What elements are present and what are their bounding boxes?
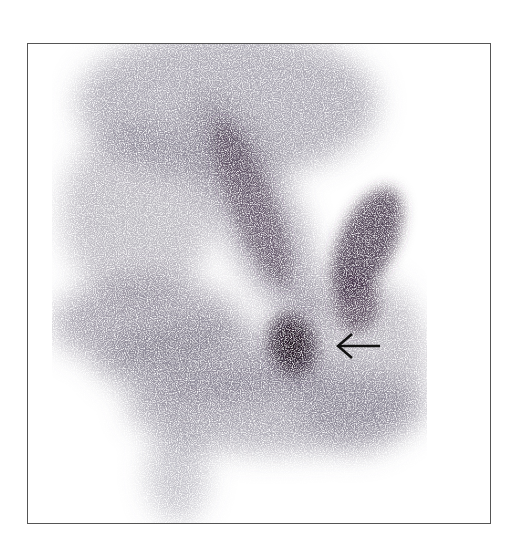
arrow-left-icon (334, 332, 382, 360)
scintigraphy-image (28, 44, 490, 523)
scan-frame (27, 43, 491, 524)
